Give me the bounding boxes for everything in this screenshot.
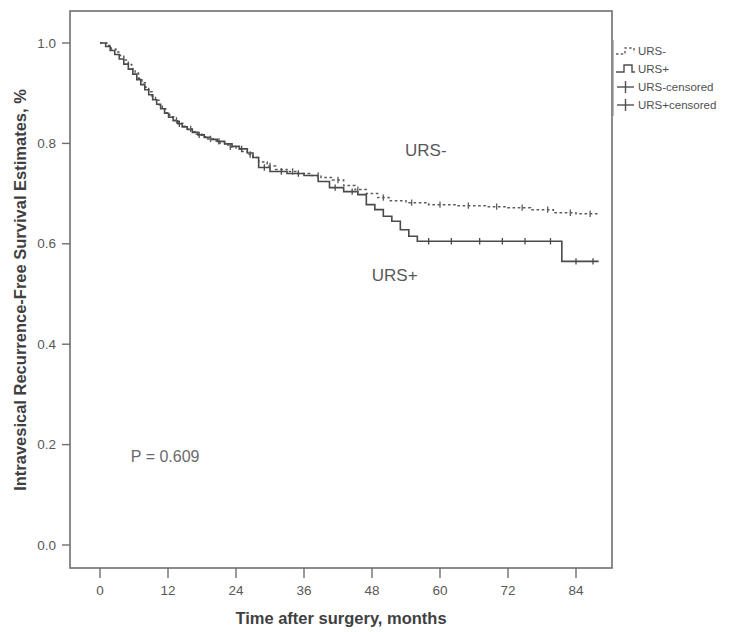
x-tick-label: 72 xyxy=(500,583,515,598)
x-axis-ticks: 012243648607284 xyxy=(96,568,584,598)
y-tick-label: 0.2 xyxy=(37,437,56,452)
y-tick-label: 1.0 xyxy=(37,36,56,51)
y-tick-label: 0.4 xyxy=(37,337,56,352)
y-tick-label: 0.8 xyxy=(37,136,56,151)
x-tick-label: 12 xyxy=(160,583,175,598)
survival-curve-urs-plus xyxy=(100,43,599,261)
legend-label: URS+censored xyxy=(638,99,716,111)
y-tick-label: 0.0 xyxy=(37,538,56,553)
x-tick-label: 24 xyxy=(228,583,244,598)
legend-item: URS- xyxy=(616,45,666,57)
y-axis-title: Intravesical Recurrence-Free Survival Es… xyxy=(11,89,29,491)
x-tick-label: 60 xyxy=(432,583,447,598)
x-tick-label: 36 xyxy=(296,583,311,598)
legend-item: URS-censored xyxy=(617,81,713,93)
legend-item: URS+censored xyxy=(617,99,716,111)
x-tick-label: 84 xyxy=(568,583,584,598)
pvalue: P = 0.609 xyxy=(131,448,200,465)
legend-label: URS-censored xyxy=(638,81,713,93)
legend-item: URS+ xyxy=(616,63,669,75)
curve-label-urs-plus: URS+ xyxy=(372,266,418,285)
legend-label: URS- xyxy=(638,45,666,57)
km-chart-svg: 0.00.20.40.60.81.0 012243648607284 P = 0… xyxy=(0,0,741,632)
y-tick-label: 0.6 xyxy=(37,236,56,251)
censoring-marks xyxy=(177,117,594,264)
x-tick-label: 48 xyxy=(364,583,379,598)
curve-label-urs-minus: URS- xyxy=(405,141,447,160)
y-axis-ticks: 0.00.20.40.60.81.0 xyxy=(37,36,70,553)
survival-curves xyxy=(100,43,599,261)
x-axis-title: Time after surgery, months xyxy=(235,609,446,627)
plot-annotations: P = 0.609URS-URS+ xyxy=(131,141,447,465)
survival-curve-urs-minus xyxy=(100,43,599,214)
legend-label: URS+ xyxy=(638,63,669,75)
kaplan-meier-figure: 0.00.20.40.60.81.0 012243648607284 P = 0… xyxy=(0,0,741,632)
chart-legend: URS-URS+URS-censoredURS+censored xyxy=(613,40,716,116)
x-tick-label: 0 xyxy=(96,583,104,598)
